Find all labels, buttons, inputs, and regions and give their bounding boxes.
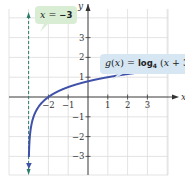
asymptote-arrow-up-icon [27, 12, 31, 18]
y-axis-arrow-icon [86, 4, 91, 11]
function-eq: = [124, 57, 138, 68]
function-callout: g(x) = log4 (x + 3) [100, 54, 185, 74]
x-tick-label: −1 [62, 100, 75, 110]
asymptote-arrow-down-icon [27, 169, 31, 175]
x-tick-label: 2 [125, 100, 130, 110]
x-tick-label: 3 [145, 100, 150, 110]
x-axis-label: x [181, 92, 185, 102]
asymptote-eq: = [45, 9, 59, 20]
y-tick-label: 3 [79, 33, 84, 43]
graph-plot: xy−2−1123321−1−2−3 [0, 0, 185, 189]
asymptote-rhs: −3 [59, 10, 72, 20]
y-tick-label: −3 [72, 151, 85, 161]
y-axis-label: y [77, 1, 84, 11]
asymptote-callout: x = −3 [35, 6, 77, 24]
x-tick-label: 1 [105, 100, 110, 110]
y-tick-label: −2 [72, 132, 85, 142]
expr-rest: + 3) [169, 57, 185, 68]
log-text: log [138, 58, 153, 68]
y-tick-label: −1 [72, 112, 85, 122]
curve-arrow-down-icon [26, 163, 32, 169]
y-tick-label: 1 [79, 72, 84, 82]
expr-open: ( [157, 57, 164, 68]
x-axis-arrow-icon [172, 95, 179, 100]
y-tick-label: 2 [79, 52, 84, 62]
